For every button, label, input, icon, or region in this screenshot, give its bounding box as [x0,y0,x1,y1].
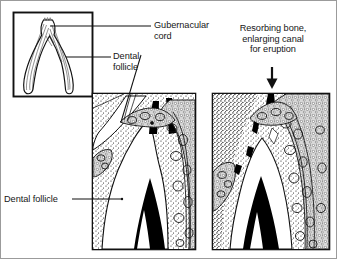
left-panel-artwork [93,94,196,250]
figure-root: Gubernacular cord Dental follicle Resorb… [0,0,338,260]
right-panel-artwork [213,94,330,250]
label-dental-follicle-inset: Dental follicle [113,51,139,72]
label-resorbing-bone: Resorbing bone, enlarging canal for erup… [212,23,334,55]
label-dental-follicle-panel: Dental follicle [4,194,58,205]
inset-artwork [14,13,93,97]
down-arrow-icon [267,67,278,89]
label-gubernacular-cord: Gubernacular cord [154,20,209,41]
